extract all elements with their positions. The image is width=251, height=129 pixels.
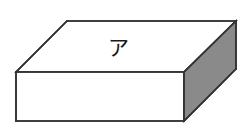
top-face-label: ア	[108, 36, 129, 60]
figure-canvas: ア	[0, 0, 251, 129]
prism-front-face	[16, 72, 184, 121]
rectangular-prism-diagram: ア	[0, 0, 251, 129]
